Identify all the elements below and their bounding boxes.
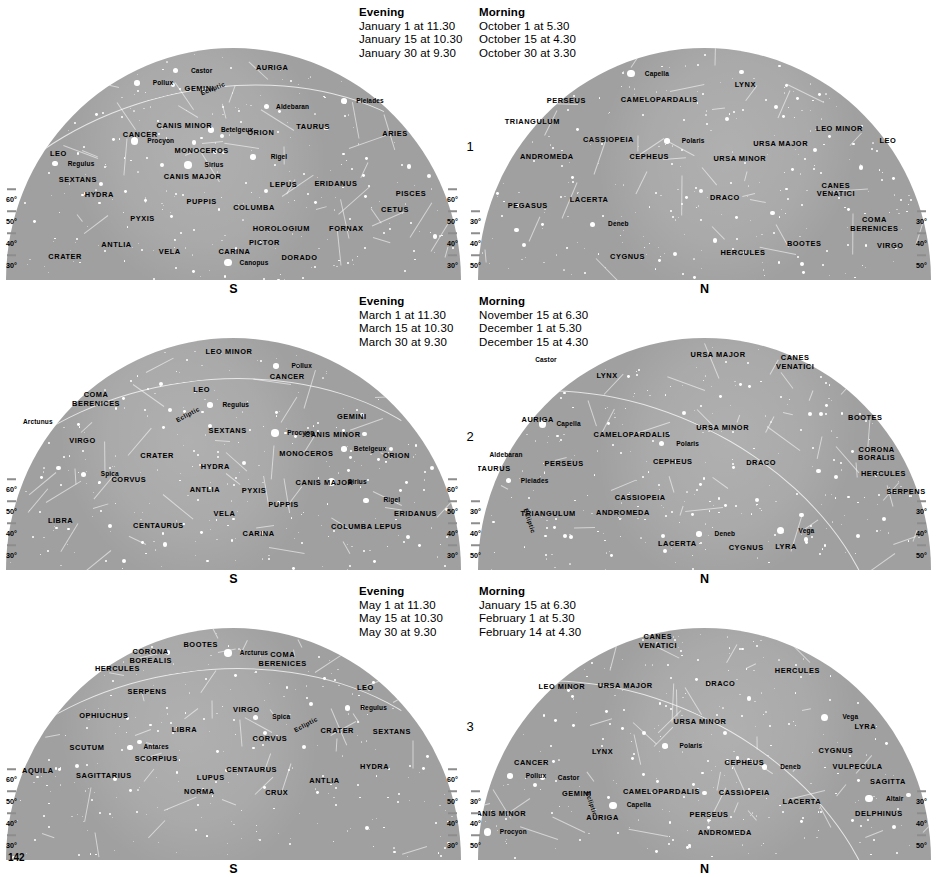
star-point (644, 247, 645, 248)
constellation-label: SERPENS (127, 688, 166, 697)
star-point (658, 259, 661, 262)
star-point (879, 169, 880, 170)
scale-dash (471, 544, 480, 546)
constellation-label: CEPHEUS (725, 758, 765, 767)
star-point (208, 664, 209, 665)
star-label: Deneb (608, 220, 629, 229)
scale-dash (471, 790, 480, 792)
star-point (910, 199, 912, 201)
star-point (685, 196, 688, 199)
star-point (166, 61, 167, 62)
scale-dash (448, 254, 457, 256)
bright-star (127, 745, 133, 751)
star-point (489, 263, 490, 264)
star-point (856, 534, 860, 538)
scale-dash (7, 232, 16, 234)
star-label: Pleiades (521, 476, 549, 485)
star-label: Regulus (68, 159, 95, 168)
scale-dash (448, 812, 457, 814)
scale-dash (448, 790, 457, 792)
star-point (176, 371, 177, 372)
star-point (854, 277, 856, 279)
star-point (844, 515, 845, 516)
star-point (748, 385, 751, 388)
star-point (615, 184, 616, 185)
star-point (906, 211, 907, 212)
scale-tick: 30° (6, 261, 17, 270)
constellation-label: TAURUS (478, 465, 511, 474)
star-point (544, 212, 545, 213)
star-point (840, 462, 842, 464)
star-point (548, 136, 549, 137)
constellation-line (102, 83, 119, 88)
star-point (681, 655, 683, 657)
star-point (310, 76, 311, 77)
star-point (638, 369, 640, 371)
constellation-label: AQUILA (22, 767, 54, 776)
star-point (812, 466, 813, 467)
star-point (621, 86, 622, 87)
star-point (866, 754, 867, 755)
star-point (765, 711, 766, 712)
constellation-label: CRATER (320, 727, 354, 736)
constellation-label: MONOCEROS (175, 146, 229, 155)
star-label: Polaris (680, 742, 703, 751)
star-point (789, 399, 790, 400)
star-point (782, 115, 785, 118)
star-point (636, 374, 638, 376)
star-point (900, 199, 902, 201)
constellation-label: LIBRA (172, 726, 197, 735)
constellation-label: ERIDANUS (314, 179, 357, 188)
constellation-label: LYNX (592, 748, 613, 757)
star-point (599, 97, 601, 99)
bright-star (224, 649, 232, 657)
constellation-label: PERSEUS (689, 811, 728, 820)
star-point (759, 182, 760, 183)
morning-time-line: December 1 at 5.30 (479, 322, 588, 336)
constellation-label: CORONA BOREALIS (120, 648, 182, 665)
star-label: Procyon (147, 137, 174, 146)
star-point (623, 230, 624, 231)
star-point (704, 54, 706, 56)
star-point (896, 209, 897, 210)
constellation-line (795, 647, 811, 663)
scale-tick: 50° (6, 217, 17, 226)
star-point (784, 87, 785, 88)
star-point (629, 86, 630, 87)
morning-time-line: January 15 at 6.30 (479, 599, 581, 613)
evening-time-line: May 15 at 10.30 (359, 612, 479, 626)
star-point (795, 149, 796, 150)
star-point (885, 742, 888, 745)
constellation-label: CEPHEUS (653, 458, 693, 467)
star-label: Sirius (204, 161, 223, 170)
star-point (194, 54, 195, 55)
star-point (566, 247, 568, 249)
star-point (732, 151, 733, 152)
morning-time-line: October 1 at 5.30 (479, 20, 576, 34)
constellation-label: VIRGO (69, 437, 96, 446)
star-point (753, 641, 754, 642)
star-point (326, 371, 327, 372)
star-point (906, 793, 910, 797)
star-label: Canopus (240, 258, 269, 267)
constellation-line (667, 376, 705, 391)
star-point (841, 412, 844, 415)
star-point (760, 640, 761, 641)
star-point (849, 159, 850, 160)
star-point (813, 168, 815, 170)
star-point (121, 97, 122, 98)
star-point (812, 447, 814, 449)
star-point (868, 191, 869, 192)
constellation-line (780, 372, 792, 388)
star-point (672, 145, 673, 146)
star-point (799, 236, 800, 237)
scale-tick: 40° (470, 529, 481, 538)
bright-star (821, 714, 829, 722)
scale-tick: 50° (447, 797, 458, 806)
constellation-line (743, 193, 755, 197)
star-point (282, 79, 283, 80)
star-point (780, 396, 782, 398)
constellation-label: LEO (193, 386, 210, 395)
star-point (298, 84, 299, 85)
constellation-label: LACERTA (783, 797, 822, 806)
